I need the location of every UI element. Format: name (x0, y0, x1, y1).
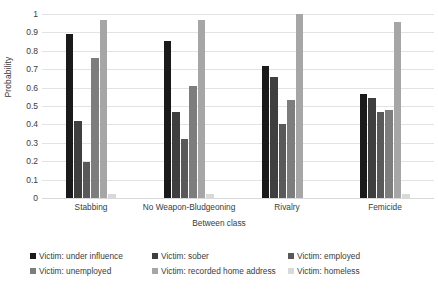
bar (181, 139, 189, 198)
y-tick-label: 0.7 (14, 64, 38, 74)
bar (287, 100, 295, 198)
bar (270, 77, 278, 198)
bar (100, 20, 108, 198)
legend-swatch-icon (30, 268, 36, 274)
legend-item[interactable]: Victim: employed (288, 248, 418, 263)
grouped-bar-chart: Probability 00.10.20.30.40.50.60.70.80.9… (0, 0, 438, 293)
legend-label: Victim: recorded home address (161, 266, 276, 276)
legend-swatch-icon (152, 268, 158, 274)
legend-item[interactable]: Victim: sober (152, 248, 288, 263)
bar (198, 20, 206, 198)
x-tick-label: Femicide (368, 202, 402, 212)
y-tick-label: 0.9 (14, 27, 38, 37)
bar-group (336, 14, 434, 198)
legend-label: Victim: under influence (39, 251, 123, 261)
bar (172, 112, 180, 198)
legend-label: Victim: sober (161, 251, 209, 261)
legend-swatch-icon (152, 253, 158, 259)
legend-item[interactable]: Victim: recorded home address (152, 263, 288, 278)
legend-label: Victim: unemployed (39, 266, 111, 276)
y-tick-label: 0.2 (14, 156, 38, 166)
bar-group (238, 14, 336, 198)
x-axis-title: Between class (0, 218, 438, 228)
bar (296, 14, 304, 198)
bar (108, 194, 116, 198)
bar-group (42, 14, 140, 198)
legend-item[interactable]: Victim: homeless (288, 263, 418, 278)
legend-swatch-icon (288, 253, 294, 259)
bar (206, 194, 214, 198)
legend-item[interactable]: Victim: under influence (30, 248, 152, 263)
y-tick-label: 0.8 (14, 46, 38, 56)
x-tick-label: Stabbing (75, 202, 108, 212)
bar-group (140, 14, 238, 198)
grid-and-bars (42, 14, 434, 198)
bar (394, 22, 402, 198)
legend-label: Victim: homeless (297, 266, 360, 276)
x-tick-label: No Weapon-Bludgeoning (143, 202, 236, 212)
bar (83, 162, 91, 198)
bar (360, 94, 368, 198)
y-tick-label: 0.4 (14, 119, 38, 129)
legend-swatch-icon (288, 268, 294, 274)
bar (66, 34, 74, 198)
bar (91, 58, 99, 198)
y-tick-label: 0 (14, 193, 38, 203)
legend-swatch-icon (30, 253, 36, 259)
y-tick-label: 0.1 (14, 175, 38, 185)
gridline (42, 198, 434, 199)
x-tick-label: Rivalry (274, 202, 299, 212)
y-tick-label: 0.5 (14, 101, 38, 111)
legend-item[interactable]: Victim: unemployed (30, 263, 152, 278)
bar (164, 41, 172, 198)
y-tick-label: 0.6 (14, 83, 38, 93)
bar (377, 112, 385, 198)
bar (74, 121, 82, 198)
y-tick-label: 0.3 (14, 138, 38, 148)
bar (279, 124, 287, 198)
legend-label: Victim: employed (297, 251, 360, 261)
bar (368, 98, 376, 198)
bar (385, 110, 393, 198)
bar (189, 86, 197, 198)
bar (262, 66, 270, 198)
plot-area: Probability 00.10.20.30.40.50.60.70.80.9… (0, 0, 438, 240)
bars-layer (42, 14, 434, 198)
y-tick-label: 1 (14, 9, 38, 19)
bar (402, 194, 410, 198)
y-axis-tick-labels: 00.10.20.30.40.50.60.70.80.91 (10, 0, 38, 240)
